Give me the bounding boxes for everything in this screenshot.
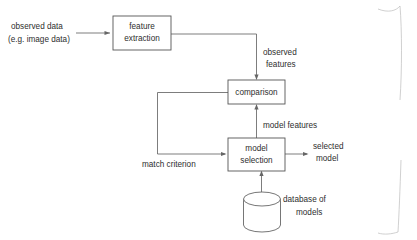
label-observed-data: observed data (e.g. image data) [8,22,70,44]
label-database-of-models: database of models [283,195,327,217]
node-feature-extraction-label-line1: feature [129,22,155,31]
diagram-canvas: feature extraction comparison model sele… [0,0,417,240]
label-selected-model: selected model [313,142,344,163]
node-comparison-label: comparison [235,88,278,97]
edge-observed-data-to-feature-extraction [76,31,110,35]
node-model-selection-label-line2: selection [240,156,273,165]
label-observed-features-line2: features [266,60,296,69]
label-model-features: model features [263,121,317,130]
flowchart-svg: feature extraction comparison model sele… [0,0,417,240]
node-model-selection-label-line1: model [245,144,267,153]
label-observed-features: observed features [263,48,297,69]
label-observed-features-line1: observed [263,48,297,57]
edge-comparison-to-model-selection-feedback [158,93,229,157]
label-model-features-text: model features [263,121,317,130]
node-model-selection[interactable]: model selection [228,138,285,171]
node-feature-extraction[interactable]: feature extraction [113,16,171,50]
node-feature-extraction-label-line2: extraction [124,34,160,43]
edge-model-selection-to-comparison [254,104,258,138]
label-database-of-models-line1: database of [283,195,327,204]
label-database-of-models-line2: models [296,208,322,217]
node-model-database-cylinder[interactable] [244,192,281,232]
edge-feature-extraction-to-comparison [171,34,259,80]
label-match-criterion: match criterion [142,160,196,169]
label-selected-model-line1: selected [313,142,344,151]
label-match-criterion-text: match criterion [142,160,196,169]
label-observed-data-line1: observed data [11,22,63,31]
node-comparison[interactable]: comparison [228,80,285,104]
edge-model-selection-to-selected-model [285,152,309,156]
label-selected-model-line2: model [316,154,338,163]
scan-page-edge-artifact [378,6,402,234]
label-observed-data-line2: (e.g. image data) [8,35,70,44]
